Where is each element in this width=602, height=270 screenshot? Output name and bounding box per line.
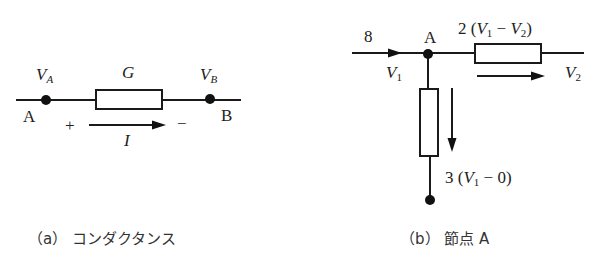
node-a-label: A [23, 108, 35, 125]
conductance-element [96, 90, 162, 109]
voltage-2-label: V2 [565, 64, 581, 83]
node-a-junction-dot [423, 49, 433, 59]
node-a-label-b: A [424, 29, 436, 46]
figure-a-caption: （a） コンダクタンス [28, 232, 176, 247]
node-b-dot [205, 94, 215, 104]
minus-sign: − [177, 115, 187, 132]
voltage-1-label: V1 [386, 64, 402, 83]
figure-b-caption: （b） 節点 A [400, 232, 489, 247]
right-branch-current-label: 2 (V1 − V2) [458, 20, 532, 39]
current-label: I [124, 132, 130, 149]
node-a-dot [41, 95, 51, 105]
node-b-label: B [221, 107, 232, 124]
input-current-value: 8 [364, 28, 373, 45]
plus-sign: + [65, 117, 75, 134]
voltage-a-label: VA [36, 66, 53, 85]
ground-node-dot [425, 195, 435, 205]
voltage-b-label: VB [200, 66, 217, 85]
down-conductance-element [420, 89, 438, 156]
conductance-label: G [122, 64, 134, 81]
input-current-arrow-head [388, 49, 402, 58]
down-current-arrow-head [448, 138, 457, 152]
right-current-arrow-head [531, 72, 545, 81]
down-branch-current-label: 3 (V1 − 0) [445, 169, 512, 188]
right-conductance-element [475, 44, 541, 63]
current-arrow-head [152, 121, 166, 130]
